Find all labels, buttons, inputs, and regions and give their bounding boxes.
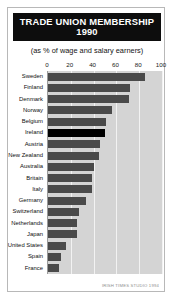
bar-row xyxy=(48,263,162,274)
bar-row xyxy=(48,161,162,172)
bar xyxy=(48,253,61,261)
category-label: United States xyxy=(8,240,43,251)
bar xyxy=(48,219,77,227)
category-label: Switzerland xyxy=(13,206,43,217)
bar-row xyxy=(48,173,162,184)
category-label: Norway xyxy=(23,105,43,116)
bar xyxy=(48,73,145,81)
bar xyxy=(48,163,94,171)
bar-row xyxy=(48,94,162,105)
category-label: Denmark xyxy=(19,94,43,105)
bar-row xyxy=(48,127,162,138)
category-label: Belgium xyxy=(22,116,43,127)
title-year: 1990 xyxy=(76,27,97,37)
category-label: Austria xyxy=(25,139,43,150)
bar-row xyxy=(48,251,162,262)
chart-card: TRADE UNION MEMBERSHIP 1990 (as % of wag… xyxy=(7,7,165,292)
bar xyxy=(48,152,99,160)
category-label: Spain xyxy=(28,251,43,262)
chart-subtitle: (as % of wage and salary earners) xyxy=(8,46,166,55)
x-tick-label: 100 xyxy=(156,61,166,68)
category-label: Australia xyxy=(20,161,43,172)
x-tick-label: 60 xyxy=(112,61,119,68)
bar xyxy=(48,95,129,103)
category-label: Britain xyxy=(26,173,43,184)
bar xyxy=(48,208,79,216)
bar xyxy=(48,118,106,126)
credit-line: IRISH TIMES STUDIO 1994 xyxy=(102,283,159,288)
x-tick-label: 80 xyxy=(135,61,142,68)
category-label: New Zealand xyxy=(8,150,43,161)
bar-row xyxy=(48,195,162,206)
x-axis-tick-labels: 020406080100 xyxy=(8,61,166,70)
bar-row xyxy=(48,105,162,116)
chart-title-banner: TRADE UNION MEMBERSHIP 1990 xyxy=(13,13,161,41)
category-label: Japan xyxy=(27,229,43,240)
gridline xyxy=(162,71,163,274)
bar-row xyxy=(48,240,162,251)
bar-row xyxy=(48,116,162,127)
category-label: Sweden xyxy=(22,71,43,82)
x-tick-label: 0 xyxy=(45,61,48,68)
bar xyxy=(48,84,130,92)
bar-row xyxy=(48,150,162,161)
category-label: Germany xyxy=(19,195,43,206)
bar-row xyxy=(48,184,162,195)
bar xyxy=(48,106,112,114)
bar xyxy=(48,140,100,148)
bar xyxy=(48,197,86,205)
x-tick-label: 40 xyxy=(89,61,96,68)
category-label: Netherlands xyxy=(11,218,43,229)
category-label: Ireland xyxy=(25,127,43,138)
bar-row xyxy=(48,82,162,93)
bar-row xyxy=(48,71,162,82)
bar xyxy=(48,264,59,272)
bar xyxy=(48,185,92,193)
category-label: Finland xyxy=(24,82,43,93)
bar xyxy=(48,129,105,137)
bar xyxy=(48,242,66,250)
category-label: France xyxy=(25,263,43,274)
bar-row xyxy=(48,139,162,150)
plot-area xyxy=(47,71,162,274)
bar-row xyxy=(48,218,162,229)
bar xyxy=(48,230,77,238)
bar-row xyxy=(48,229,162,240)
bar-row xyxy=(48,206,162,217)
bar xyxy=(48,174,92,182)
x-tick-label: 20 xyxy=(66,61,73,68)
category-label: Italy xyxy=(32,184,43,195)
